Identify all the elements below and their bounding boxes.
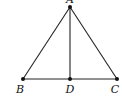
label-c: C [111, 83, 120, 96]
segments [23, 7, 117, 79]
point-c [115, 77, 119, 81]
triangle-diagram: A B D C [0, 0, 122, 97]
label-b: B [15, 83, 24, 96]
point-d [68, 77, 72, 81]
point-b [21, 77, 25, 81]
segment-ab [23, 7, 70, 79]
segment-ac [70, 7, 117, 79]
label-a: A [65, 0, 74, 6]
label-d: D [65, 83, 75, 96]
labels: A B D C [15, 0, 120, 96]
